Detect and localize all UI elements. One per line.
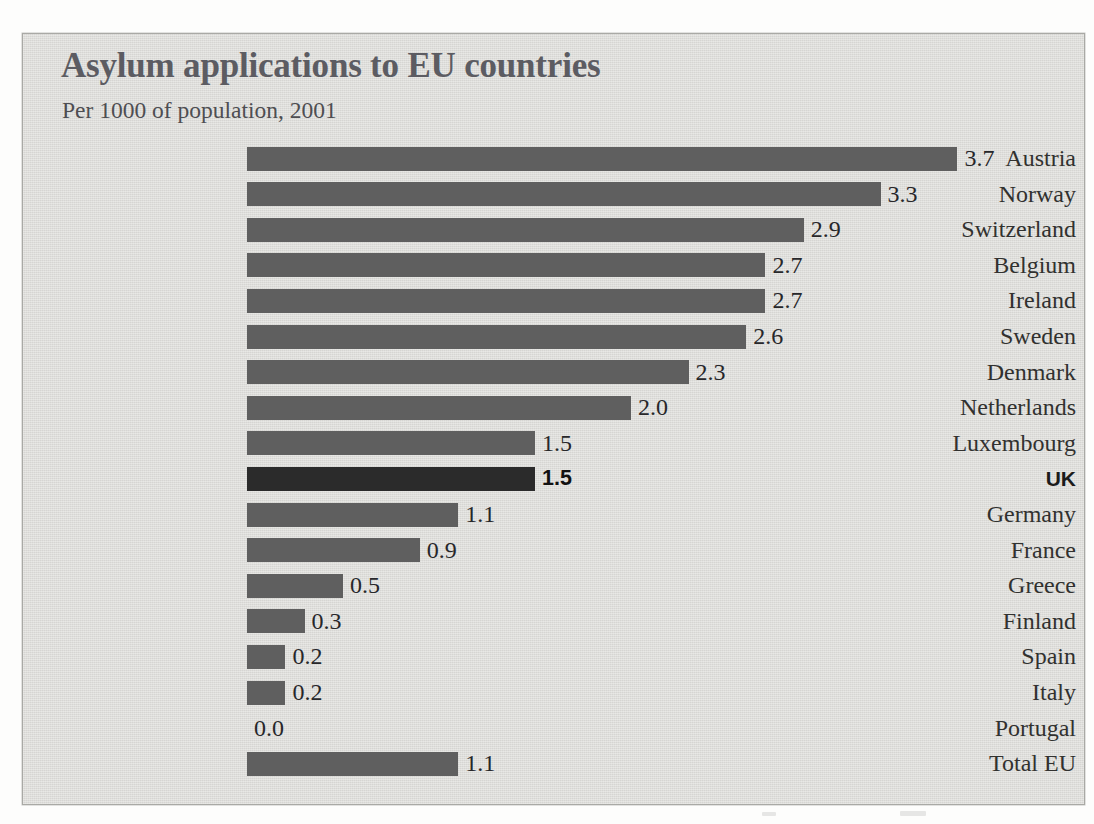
plot-area: Austria3.7Norway3.3Switzerland2.9Belgium… xyxy=(23,137,1084,797)
bar xyxy=(247,360,689,384)
chart-title: Asylum applications to EU countries xyxy=(61,46,600,86)
bar-track: 2.7 xyxy=(247,285,1084,316)
bar-row: Austria3.7 xyxy=(23,143,1084,174)
bar-row: UK1.5 xyxy=(23,463,1084,494)
bar-value-label: 0.2 xyxy=(292,677,322,708)
bar-track: 0.0 xyxy=(247,713,1084,744)
bar xyxy=(247,752,458,776)
bar-row: Norway3.3 xyxy=(23,179,1084,210)
bar-value-label: 2.3 xyxy=(696,357,726,388)
bar xyxy=(247,681,285,705)
bar-track: 0.2 xyxy=(247,677,1084,708)
bar xyxy=(247,325,746,349)
bar-row: Switzerland2.9 xyxy=(23,214,1084,245)
scan-artifact xyxy=(900,811,926,816)
bar-row: France0.9 xyxy=(23,535,1084,566)
bar-track: 2.9 xyxy=(247,214,1084,245)
bar-row: Greece0.5 xyxy=(23,570,1084,601)
bar-row: Portugal0.0 xyxy=(23,713,1084,744)
bar-value-label: 0.2 xyxy=(292,641,322,672)
bar-row: Sweden2.6 xyxy=(23,321,1084,352)
bar-track: 1.1 xyxy=(247,499,1084,530)
bar-row: Total EU1.1 xyxy=(23,748,1084,779)
bar xyxy=(247,609,305,633)
bar xyxy=(247,645,285,669)
bar-row: Germany1.1 xyxy=(23,499,1084,530)
bar-value-label: 1.5 xyxy=(542,428,572,459)
bar-track: 1.5 xyxy=(247,428,1084,459)
bar xyxy=(247,538,420,562)
bar-track: 1.1 xyxy=(247,748,1084,779)
bar-track: 0.3 xyxy=(247,606,1084,637)
bar-value-label: 1.1 xyxy=(465,499,495,530)
bar xyxy=(247,467,535,491)
bar-track: 0.2 xyxy=(247,641,1084,672)
bar-track: 2.0 xyxy=(247,392,1084,423)
bar-value-label: 3.7 xyxy=(964,143,994,174)
bar xyxy=(247,218,804,242)
bar xyxy=(247,147,957,171)
bar-value-label: 3.3 xyxy=(888,179,918,210)
bar-row: Netherlands2.0 xyxy=(23,392,1084,423)
bar-value-label: 0.9 xyxy=(427,535,457,566)
bar-value-label: 1.1 xyxy=(465,748,495,779)
bar xyxy=(247,253,765,277)
bar-row: Belgium2.7 xyxy=(23,250,1084,281)
bar-value-label: 1.5 xyxy=(542,463,572,494)
bar xyxy=(247,503,458,527)
bar xyxy=(247,431,535,455)
bar-row: Denmark2.3 xyxy=(23,357,1084,388)
bar-value-label: 2.7 xyxy=(772,285,802,316)
bar-value-label: 2.9 xyxy=(811,214,841,245)
bar xyxy=(247,182,881,206)
bar xyxy=(247,574,343,598)
scanned-page: Asylum applications to EU countries Per … xyxy=(0,0,1094,824)
bar-row: Luxembourg1.5 xyxy=(23,428,1084,459)
bar-track: 3.7 xyxy=(247,143,1084,174)
bar xyxy=(247,289,765,313)
bar-row: Spain0.2 xyxy=(23,641,1084,672)
bar xyxy=(247,396,631,420)
bar-value-label: 0.5 xyxy=(350,570,380,601)
bar-value-label: 2.0 xyxy=(638,392,668,423)
bar-track: 3.3 xyxy=(247,179,1084,210)
chart-panel: Asylum applications to EU countries Per … xyxy=(22,33,1085,805)
bar-value-label: 2.7 xyxy=(772,250,802,281)
bar-track: 1.5 xyxy=(247,463,1084,494)
bar-track: 2.6 xyxy=(247,321,1084,352)
bar-value-label: 0.0 xyxy=(254,713,284,744)
bar-track: 2.3 xyxy=(247,357,1084,388)
bar-value-label: 2.6 xyxy=(753,321,783,352)
bar-row: Ireland2.7 xyxy=(23,285,1084,316)
bar-row: Finland0.3 xyxy=(23,606,1084,637)
scan-artifact xyxy=(762,812,776,816)
bar-track: 0.9 xyxy=(247,535,1084,566)
bar-value-label: 0.3 xyxy=(312,606,342,637)
bar-row: Italy0.2 xyxy=(23,677,1084,708)
bar-track: 2.7 xyxy=(247,250,1084,281)
bar-track: 0.5 xyxy=(247,570,1084,601)
chart-subtitle: Per 1000 of population, 2001 xyxy=(62,97,337,124)
